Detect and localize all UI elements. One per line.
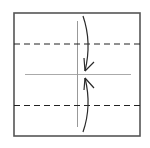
origami-diagram bbox=[0, 0, 150, 148]
